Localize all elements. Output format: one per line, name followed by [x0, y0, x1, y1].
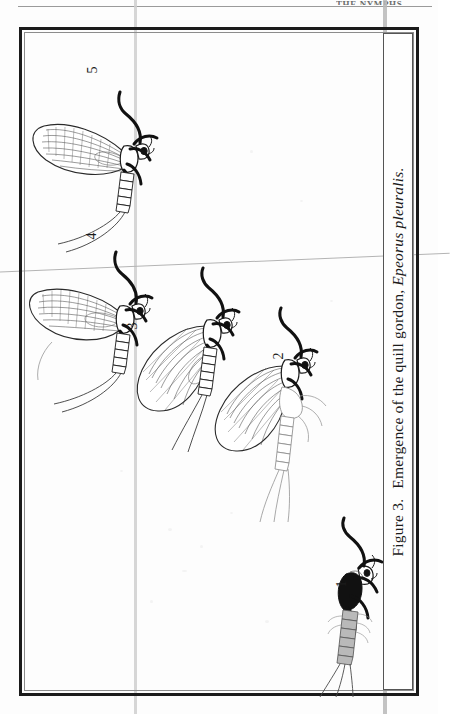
header-rule — [18, 6, 432, 7]
stage-label-1: 1 — [334, 581, 350, 588]
figure-caption-box: Figure 3.Emergence of the quill gordon, … — [383, 33, 413, 690]
stage-label-2: 2 — [271, 353, 287, 360]
stage-label-5: 5 — [85, 67, 101, 74]
stage-label-3: 3 — [125, 323, 141, 330]
stage-label-4: 4 — [84, 233, 100, 240]
caption-label: Figure 3. — [389, 498, 406, 556]
figure-caption-text: Figure 3.Emergence of the quill gordon, … — [389, 42, 407, 682]
figure-illustration-plate: 5 — [22, 30, 380, 693]
mayfly-stage-2 — [180, 308, 330, 523]
caption-species-name: Epeorus pleuralis. — [389, 167, 406, 285]
caption-body: Emergence of the quill gordon, — [389, 289, 406, 488]
mayfly-stage-1 — [250, 522, 390, 697]
